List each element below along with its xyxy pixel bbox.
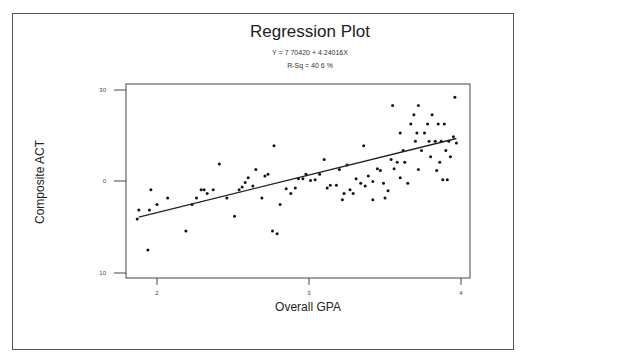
- data-point: [149, 188, 152, 191]
- data-point: [309, 179, 312, 182]
- data-point: [390, 158, 393, 161]
- data-point: [212, 188, 215, 191]
- data-point: [417, 104, 420, 107]
- data-point: [136, 218, 139, 221]
- data-point: [276, 232, 279, 235]
- data-point: [437, 122, 440, 125]
- data-point: [166, 197, 169, 200]
- data-point: [352, 192, 355, 195]
- data-point: [364, 185, 367, 188]
- data-point: [435, 169, 438, 172]
- data-point: [382, 182, 385, 185]
- data-point: [156, 203, 159, 206]
- y-axis-ticks: 30010: [99, 87, 126, 276]
- data-point: [420, 149, 423, 152]
- y-tick-label: 10: [99, 270, 106, 276]
- data-point: [412, 113, 415, 116]
- data-point: [417, 168, 420, 171]
- data-point: [335, 184, 338, 187]
- data-point: [233, 215, 236, 218]
- data-point: [393, 167, 396, 170]
- data-point: [434, 140, 437, 143]
- data-point: [406, 182, 409, 185]
- data-point: [423, 132, 426, 135]
- data-point: [362, 144, 365, 147]
- data-point: [355, 177, 358, 180]
- data-point: [206, 192, 209, 195]
- data-point: [146, 249, 149, 252]
- data-point: [195, 197, 198, 200]
- data-point: [225, 197, 228, 200]
- data-point: [137, 208, 140, 211]
- data-point: [218, 163, 221, 166]
- data-point: [251, 185, 254, 188]
- data-point: [184, 229, 187, 232]
- data-point: [263, 175, 266, 178]
- data-point: [238, 188, 241, 191]
- x-tick-label: 4: [459, 290, 463, 296]
- data-point: [301, 177, 304, 180]
- y-tick-label: 30: [99, 87, 106, 93]
- data-point: [399, 132, 402, 135]
- data-point: [414, 140, 417, 143]
- data-point: [279, 203, 282, 206]
- data-point: [203, 188, 206, 191]
- data-point: [247, 176, 250, 179]
- data-point: [415, 132, 418, 135]
- data-point: [428, 140, 431, 143]
- data-point: [379, 169, 382, 172]
- data-point: [359, 182, 362, 185]
- data-point: [338, 168, 341, 171]
- data-point: [403, 161, 406, 164]
- data-point: [429, 155, 432, 158]
- data-point: [314, 178, 317, 181]
- data-point: [441, 178, 444, 181]
- data-point: [323, 158, 326, 161]
- data-point: [449, 155, 452, 158]
- data-point: [371, 180, 374, 183]
- data-point: [367, 175, 370, 178]
- data-point: [267, 173, 270, 176]
- data-point: [371, 198, 374, 201]
- data-point: [271, 229, 274, 232]
- data-point: [343, 192, 346, 195]
- data-point: [396, 161, 399, 164]
- data-point: [453, 96, 456, 99]
- scatter-plot: 30010 234: [0, 0, 620, 361]
- data-point: [326, 186, 329, 189]
- data-point: [289, 192, 292, 195]
- data-point: [444, 149, 447, 152]
- data-point: [399, 176, 402, 179]
- y-tick-label: 0: [103, 178, 107, 184]
- data-point: [294, 186, 297, 189]
- data-point: [387, 189, 390, 192]
- data-point: [384, 197, 387, 200]
- x-axis-ticks: 234: [155, 278, 463, 296]
- data-point: [443, 122, 446, 125]
- data-point: [426, 122, 429, 125]
- data-point: [409, 122, 412, 125]
- data-point: [341, 198, 344, 201]
- data-point: [438, 161, 441, 164]
- data-point: [349, 188, 352, 191]
- data-point: [431, 113, 434, 116]
- data-point: [455, 142, 458, 145]
- data-point: [391, 104, 394, 107]
- data-point: [446, 178, 449, 181]
- data-point: [285, 187, 288, 190]
- data-point: [376, 167, 379, 170]
- x-tick-label: 3: [307, 290, 311, 296]
- data-point: [200, 188, 203, 191]
- data-point: [452, 135, 455, 138]
- data-point: [329, 184, 332, 187]
- data-point: [260, 197, 263, 200]
- data-point: [148, 208, 151, 211]
- data-point: [241, 186, 244, 189]
- data-point: [244, 181, 247, 184]
- x-tick-label: 2: [155, 290, 159, 296]
- plot-area: [126, 84, 470, 278]
- data-point: [254, 168, 257, 171]
- data-point: [273, 144, 276, 147]
